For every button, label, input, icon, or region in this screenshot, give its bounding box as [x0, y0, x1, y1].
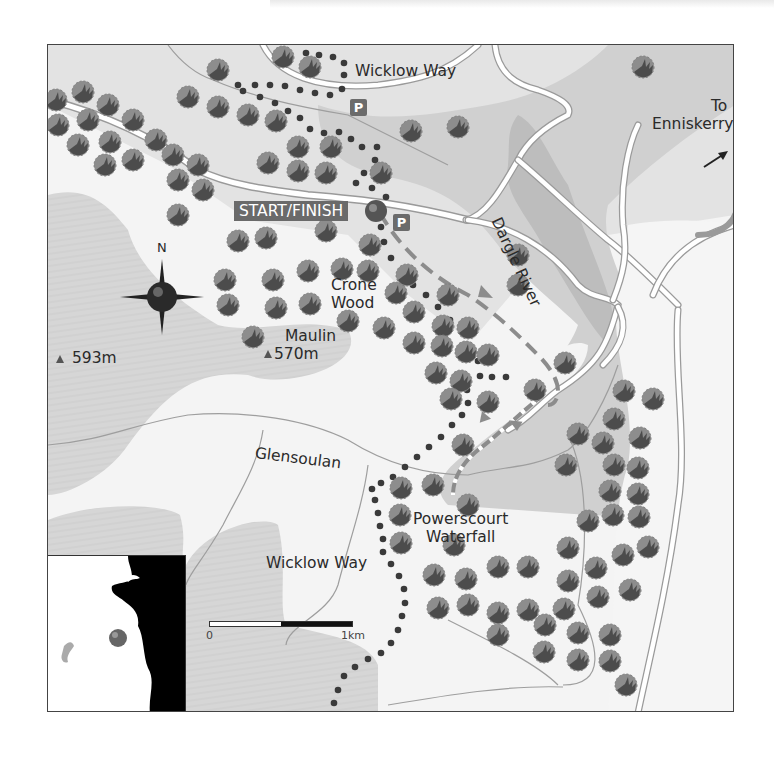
scale-label-start: 0 [206, 629, 213, 642]
label-wicklow-way-top: Wicklow Way [355, 63, 456, 80]
label-powerscourt: Powerscourt [413, 511, 508, 528]
label-crone: Crone [331, 277, 377, 294]
south-hill-shade [186, 521, 378, 712]
sphere-marker-icon [365, 200, 387, 222]
label-to: To [711, 98, 727, 115]
label-peak-593: 593m [72, 350, 117, 367]
walk-map: Wicklow Way To Enniskerry Dargle River S… [47, 44, 734, 712]
label-maulin-height: 570m [274, 346, 319, 363]
label-enniskerry: Enniskerry [652, 116, 733, 133]
label-waterfall: Waterfall [426, 529, 495, 546]
label-compass-north: N [157, 239, 167, 256]
label-wicklow-way-bottom: Wicklow Way [266, 555, 367, 572]
label-maulin: Maulin [285, 328, 336, 345]
page-top-shadow [270, 0, 774, 8]
label-wood: Wood [331, 295, 374, 312]
locator-inset-map [48, 555, 186, 712]
parking-icon: P [393, 214, 410, 231]
ireland-coast-icon [48, 556, 186, 712]
scale-bar [209, 621, 353, 627]
scale-label-end: 1km [341, 629, 365, 642]
parking-icon: P [350, 99, 367, 116]
start-finish-label: START/FINISH [234, 201, 348, 221]
